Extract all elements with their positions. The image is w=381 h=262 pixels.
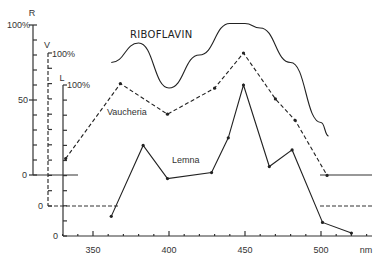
x-axis-unit: nm: [360, 245, 373, 255]
spectrum-chart: R100%500V100%0L100%0350400450500nmRIBOFL…: [0, 0, 381, 262]
data-point: [110, 215, 113, 218]
v-axis-0: 0: [38, 201, 43, 211]
r-axis-100: 100%: [7, 20, 30, 30]
chart-figure: R100%500V100%0L100%0350400450500nmRIBOFL…: [0, 0, 381, 262]
r-axis-50: 50: [18, 95, 28, 105]
data-point: [210, 171, 213, 174]
data-point: [294, 119, 297, 122]
riboflavin-label: RIBOFLAVIN: [130, 29, 192, 40]
data-point: [268, 165, 271, 168]
data-point: [142, 144, 145, 147]
data-point: [325, 174, 328, 177]
lemna-label: Lemna: [172, 155, 200, 165]
l-axis-0: 0: [53, 231, 58, 241]
data-point: [291, 148, 294, 151]
data-point: [64, 157, 67, 160]
data-point: [321, 221, 324, 224]
r-axis-0: 0: [22, 170, 27, 180]
data-point: [242, 83, 245, 86]
data-point: [166, 177, 169, 180]
data-point: [166, 113, 169, 116]
v-axis-label: V: [44, 40, 50, 50]
data-point: [227, 136, 230, 139]
x-tick-label: 350: [85, 245, 100, 255]
r-axis-label: R: [29, 8, 36, 18]
v-axis-100: 100%: [52, 49, 75, 59]
data-point: [213, 87, 216, 90]
data-point: [350, 231, 353, 234]
l-axis-label: L: [59, 73, 64, 83]
x-tick-label: 400: [161, 245, 176, 255]
lemna-curve: [111, 85, 351, 233]
x-tick-label: 500: [313, 245, 328, 255]
data-point: [274, 97, 277, 100]
data-point: [119, 82, 122, 85]
x-tick-label: 450: [237, 245, 252, 255]
l-axis-100: 100%: [67, 80, 90, 90]
vaucheria-label: Vaucheria: [107, 107, 147, 117]
data-point: [242, 51, 245, 54]
